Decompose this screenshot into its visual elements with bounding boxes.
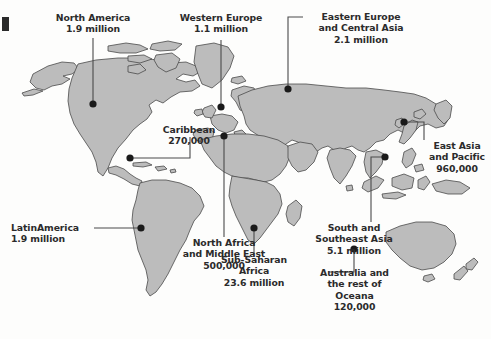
label-line: North America bbox=[56, 12, 131, 23]
label-south-southeast-asia: South andSoutheast Asia5.1 million bbox=[300, 222, 408, 256]
land-iceland bbox=[231, 76, 246, 84]
label-line: 270,000 bbox=[168, 135, 210, 146]
label-eastern-europe-central-asia: Eastern Europeand Central Asia2.1 millio… bbox=[305, 11, 417, 45]
label-line: East Asia bbox=[433, 140, 480, 151]
label-line: Caribbean bbox=[163, 124, 215, 135]
land-sri-lanka bbox=[346, 185, 353, 191]
marker-sub-saharan-africa bbox=[250, 224, 257, 231]
label-line: 120,000 bbox=[334, 301, 376, 312]
world-map-infographic: North America1.9 million Western Europe1… bbox=[0, 0, 491, 339]
land-new-guinea bbox=[432, 180, 470, 194]
label-line: the rest of bbox=[327, 278, 381, 289]
land-arctic-islands-1 bbox=[108, 43, 148, 53]
marker-western-europe bbox=[217, 103, 224, 110]
label-sub-saharan-africa: Sub-SaharanAfrica23.6 million bbox=[206, 254, 302, 288]
land-tasmania bbox=[423, 274, 435, 282]
label-line: Sub-Saharan bbox=[221, 254, 287, 265]
label-line: and Central Asia bbox=[319, 22, 404, 33]
label-line: 1.9 million bbox=[11, 233, 65, 244]
label-line: Eastern Europe bbox=[322, 11, 401, 22]
label-line: Africa bbox=[239, 265, 269, 276]
land-arctic-islands-2 bbox=[150, 41, 182, 51]
land-hispaniola bbox=[155, 166, 167, 171]
label-line: 960,000 bbox=[436, 163, 478, 174]
marker-east-asia bbox=[400, 118, 407, 125]
label-line: 23.6 million bbox=[224, 277, 284, 288]
land-greenland bbox=[194, 43, 234, 88]
label-caribbean: Caribbean270,000 bbox=[139, 124, 239, 147]
land-aleutians bbox=[22, 89, 43, 96]
land-philippines-south bbox=[414, 164, 424, 172]
land-new-zealand-north bbox=[466, 258, 478, 270]
label-line: Southeast Asia bbox=[315, 233, 392, 244]
land-indochina bbox=[364, 150, 384, 178]
label-line: Australia and bbox=[320, 267, 389, 278]
leader-eastern-europe bbox=[288, 17, 303, 89]
label-australia-oceana: Australia andthe rest ofOceana120,000 bbox=[309, 267, 400, 313]
label-line: South and bbox=[328, 222, 381, 233]
land-central-america bbox=[108, 166, 142, 186]
label-line: 2.1 million bbox=[334, 34, 388, 45]
land-sulawesi bbox=[418, 176, 430, 190]
land-borneo bbox=[392, 174, 414, 190]
land-sub-saharan-africa bbox=[229, 176, 282, 244]
label-line: Oceana bbox=[335, 290, 373, 301]
land-philippines bbox=[402, 148, 416, 168]
marker-latin-america bbox=[137, 224, 144, 231]
label-line: 1.9 million bbox=[66, 23, 120, 34]
land-arabia bbox=[288, 142, 318, 172]
label-line: LatinAmerica bbox=[11, 222, 79, 233]
label-line: Western Europe bbox=[180, 12, 262, 23]
land-new-zealand-south bbox=[454, 266, 468, 280]
marker-caribbean bbox=[126, 154, 133, 161]
label-line: and Pacific bbox=[429, 151, 485, 162]
label-east-asia-pacific: East Asiaand Pacific960,000 bbox=[424, 140, 490, 174]
label-latin-america: LatinAmerica1.9 million bbox=[11, 222, 95, 245]
land-sumatra bbox=[362, 176, 384, 192]
marker-eastern-europe bbox=[284, 85, 291, 92]
label-western-europe: Western Europe1.1 million bbox=[164, 12, 278, 35]
land-cuba bbox=[133, 162, 152, 167]
label-north-america: North America1.9 million bbox=[33, 12, 153, 35]
land-lesser-antilles bbox=[170, 169, 176, 173]
label-line: 5.1 million bbox=[327, 245, 381, 256]
label-line: North Africa bbox=[193, 237, 256, 248]
label-line: 1.1 million bbox=[194, 23, 248, 34]
marker-south-asia bbox=[381, 153, 388, 160]
land-ireland bbox=[194, 109, 203, 116]
marker-north-america bbox=[89, 100, 96, 107]
land-india bbox=[327, 148, 356, 184]
land-java bbox=[382, 192, 406, 199]
